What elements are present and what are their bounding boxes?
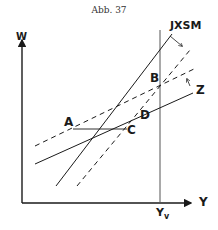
y-axis-label: Y — [199, 196, 208, 208]
jxsm-dashed-line — [77, 50, 190, 186]
z-label: Z — [196, 84, 205, 96]
yv-label: Yv — [156, 207, 169, 218]
yv-label-main: Y — [156, 206, 164, 219]
z-shift-arrow-icon — [187, 79, 190, 86]
z-solid-line — [35, 93, 193, 164]
jxsm-label: JXSM — [170, 20, 201, 31]
point-d-label: D — [140, 109, 150, 121]
w-axis-label: W — [16, 32, 27, 42]
point-a-label: A — [64, 116, 73, 128]
yv-label-subscript: v — [164, 212, 169, 221]
point-c-label: C — [127, 124, 136, 136]
diagram: Abb. 37 W Y Yv — [0, 0, 218, 230]
jxsm-shift-arrow-icon — [170, 36, 182, 46]
point-b-label: B — [150, 72, 159, 84]
z-dashed-line — [35, 68, 196, 146]
diagram-canvas — [0, 0, 218, 230]
